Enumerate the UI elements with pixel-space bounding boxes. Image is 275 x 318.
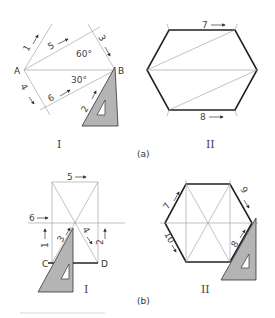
caption-a: (a) bbox=[137, 149, 150, 159]
step-2-label: 2 bbox=[79, 104, 91, 114]
step-1-label-b: 1 bbox=[40, 242, 50, 248]
part-b-step-1: C D 5 6 1 2 3 4 I bbox=[28, 172, 125, 296]
part-a-step-2: 7 8 II bbox=[147, 20, 257, 151]
step-II-label-b: II bbox=[201, 283, 210, 296]
step-8-label: 8 bbox=[200, 112, 206, 122]
point-a-label: A bbox=[14, 66, 21, 76]
point-c-label: C bbox=[42, 259, 48, 269]
step-7-label: 7 bbox=[202, 20, 208, 30]
step-6-label-b: 6 bbox=[29, 213, 35, 223]
point-d-label: D bbox=[101, 259, 108, 269]
step-5-label-b: 5 bbox=[67, 172, 73, 182]
step-I-label-b: I bbox=[84, 283, 88, 296]
step-I-label: I bbox=[57, 138, 61, 151]
step-5-label: 5 bbox=[46, 40, 56, 52]
step-1-label: 1 bbox=[21, 43, 33, 53]
part-b-step-2: 7 9 10 8 II bbox=[160, 180, 258, 296]
triangle-30-60 bbox=[82, 67, 118, 126]
step-2-label-b: 2 bbox=[95, 239, 105, 245]
step-II-label: II bbox=[206, 138, 215, 151]
step-10-label-b: 10 bbox=[162, 230, 177, 245]
step-4-label-b: 4 bbox=[80, 225, 92, 235]
caption-b: (b) bbox=[137, 296, 150, 306]
step-4-label: 4 bbox=[18, 82, 30, 92]
angle-30-label: 30° bbox=[71, 75, 87, 85]
hexagon-construction-diagram: A B 60° 30° 1 5 3 4 6 2 I 7 8 II (a) bbox=[0, 0, 275, 318]
step-9-label-b: 9 bbox=[238, 185, 250, 195]
angle-60-label: 60° bbox=[76, 49, 92, 59]
step-7-label-b: 7 bbox=[161, 201, 173, 211]
point-b-label: B bbox=[118, 66, 124, 76]
triangle-30-60-b2 bbox=[221, 218, 256, 280]
part-a-step-1: A B 60° 30° 1 5 3 4 6 2 I bbox=[14, 24, 124, 151]
